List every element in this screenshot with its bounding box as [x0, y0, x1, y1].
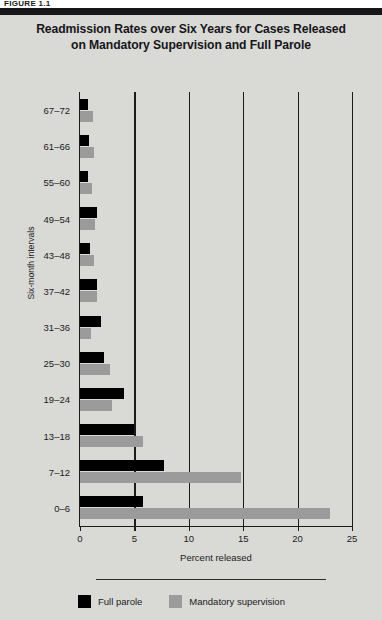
bar-mandatory-supervision	[80, 219, 95, 230]
bar-mandatory-supervision	[80, 147, 94, 158]
y-tick-label: 13–18	[44, 430, 70, 441]
gridline	[243, 92, 244, 526]
y-tick-label: 0–6	[54, 502, 70, 513]
y-axis-tick-labels: 0–67–1213–1819–2425–3031–3637–4243–4849–…	[0, 92, 74, 526]
x-tick-label: 25	[347, 533, 358, 544]
bar-full-parole	[80, 207, 97, 218]
x-tick-mark	[80, 526, 81, 531]
x-tick-label: 15	[238, 533, 249, 544]
chart-legend: Full parole Mandatory supervision	[78, 593, 368, 609]
plot-area: 0510152025 Percent released	[79, 92, 352, 527]
bar-mandatory-supervision	[80, 111, 93, 122]
y-tick-label: 19–24	[44, 394, 70, 405]
legend-swatch-mandatory-supervision	[169, 595, 182, 608]
y-tick-label: 49–54	[44, 213, 70, 224]
x-tick-label: 20	[292, 533, 303, 544]
y-tick-label: 61–66	[44, 141, 70, 152]
bar-full-parole	[80, 496, 143, 507]
bar-full-parole	[80, 316, 101, 327]
y-tick-label: 37–42	[44, 285, 70, 296]
x-tick-mark	[134, 526, 135, 531]
bar-full-parole	[80, 279, 97, 290]
y-tick-label: 25–30	[44, 358, 70, 369]
x-axis-title: Percent released	[80, 552, 352, 563]
legend-label-full-parole: Full parole	[98, 596, 142, 607]
y-tick-label: 31–36	[44, 322, 70, 333]
x-tick-label: 10	[184, 533, 195, 544]
bar-mandatory-supervision	[80, 400, 112, 411]
bar-mandatory-supervision	[80, 436, 143, 447]
gridline	[189, 92, 190, 526]
y-tick-label: 67–72	[44, 105, 70, 116]
x-tick-mark	[298, 526, 299, 531]
legend-swatch-full-parole	[78, 595, 91, 608]
bar-mandatory-supervision	[80, 183, 92, 194]
bar-full-parole	[80, 243, 90, 254]
x-tick-label: 5	[132, 533, 137, 544]
figure-panel: Readmission Rates over Six Years for Cas…	[0, 8, 382, 620]
x-tick-mark	[189, 526, 190, 531]
bar-full-parole	[80, 424, 134, 435]
bar-mandatory-supervision	[80, 472, 241, 483]
y-tick-label: 55–60	[44, 177, 70, 188]
legend-separator	[96, 579, 326, 580]
y-tick-label: 43–48	[44, 249, 70, 260]
gridline	[298, 92, 299, 526]
bar-mandatory-supervision	[80, 255, 94, 266]
x-tick-mark	[352, 526, 353, 531]
gridline	[352, 92, 353, 526]
chart-title: Readmission Rates over Six Years for Cas…	[18, 21, 364, 53]
legend-label-mandatory-supervision: Mandatory supervision	[189, 596, 285, 607]
bar-full-parole	[80, 99, 88, 110]
x-tick-mark	[243, 526, 244, 531]
chart-title-line-1: Readmission Rates over Six Years for Cas…	[18, 21, 364, 37]
bar-full-parole	[80, 171, 88, 182]
bar-full-parole	[80, 135, 89, 146]
legend-item-full-parole: Full parole	[78, 595, 142, 608]
bar-full-parole	[80, 388, 124, 399]
bar-full-parole	[80, 352, 104, 363]
bar-mandatory-supervision	[80, 328, 91, 339]
x-tick-label: 0	[77, 533, 82, 544]
y-tick-label: 7–12	[49, 466, 70, 477]
bar-mandatory-supervision	[80, 291, 97, 302]
bar-mandatory-supervision	[80, 364, 110, 375]
bar-full-parole	[80, 460, 164, 471]
legend-item-mandatory-supervision: Mandatory supervision	[169, 595, 285, 608]
bar-mandatory-supervision	[80, 508, 330, 519]
figure-label: FIGURE 1.1	[0, 0, 382, 8]
chart-title-line-2: on Mandatory Supervision and Full Parole	[18, 37, 364, 53]
figure-top-rule	[0, 8, 382, 15]
